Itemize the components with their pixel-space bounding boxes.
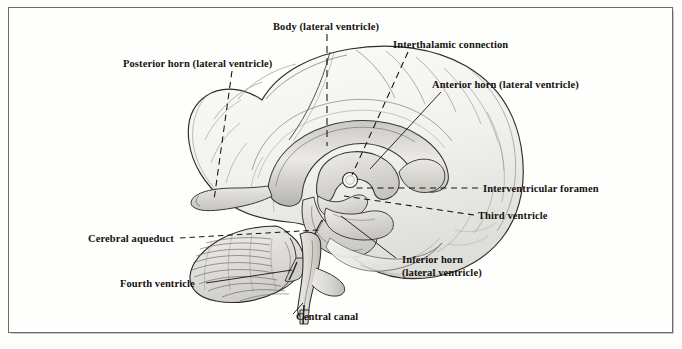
brain-illustration [0, 0, 682, 349]
label-third-ventricle: Third ventricle [478, 209, 547, 222]
label-inferior-horn-line1: Inferior horn [402, 253, 522, 266]
label-inferior-horn-lateral-ventricle: Inferior horn (lateral ventricle) [402, 253, 522, 279]
label-posterior-horn-lateral-ventricle: Posterior horn (lateral ventricle) [123, 57, 272, 70]
label-interventricular-foramen: Interventricular foramen [483, 182, 599, 195]
label-anterior-horn-lateral-ventricle: Anterior horn (lateral ventricle) [432, 78, 579, 91]
label-interthalamic-connection: Interthalamic connection [393, 38, 508, 51]
medulla-bulge [312, 268, 345, 296]
cerebellum-group [190, 226, 303, 303]
label-central-canal: Central canal [296, 310, 358, 323]
label-fourth-ventricle: Fourth ventricle [120, 277, 195, 290]
interthalamic-adhesion-inner [346, 176, 355, 185]
figure-root: Body (lateral ventricle) Interthalamic c… [0, 0, 682, 349]
label-body-lateral-ventricle: Body (lateral ventricle) [273, 20, 379, 33]
label-cerebral-aqueduct: Cerebral aqueduct [88, 232, 174, 245]
label-inferior-horn-line2: (lateral ventricle) [402, 266, 522, 279]
